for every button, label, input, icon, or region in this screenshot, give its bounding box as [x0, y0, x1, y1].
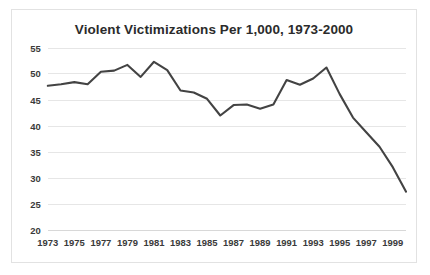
line-chart-plot: 2025303540455055 19731975197719791981198… — [12, 10, 416, 262]
x-axis-tick-label: 1973 — [37, 237, 58, 248]
x-axis-tick-label: 1995 — [329, 237, 350, 248]
gridlines — [48, 48, 406, 231]
x-axis-tick-label: 1985 — [197, 237, 218, 248]
y-axis-tick-labels: 2025303540455055 — [30, 43, 40, 237]
y-axis-tick-label: 40 — [30, 121, 40, 132]
y-axis-tick-label: 30 — [30, 173, 40, 184]
x-axis-tick-label: 1997 — [356, 237, 377, 248]
x-axis-tick-label: 1993 — [303, 237, 324, 248]
x-axis-tick-label: 1983 — [170, 237, 191, 248]
chart-container: Violent Victimizations Per 1,000, 1973-2… — [11, 9, 417, 263]
y-axis-tick-label: 55 — [30, 43, 40, 54]
x-axis-tick-label: 1975 — [64, 237, 85, 248]
y-axis-tick-label: 45 — [30, 95, 40, 106]
y-axis-tick-label: 25 — [30, 199, 40, 210]
y-axis-tick-label: 50 — [30, 68, 40, 79]
x-axis-tick-label: 1999 — [382, 237, 403, 248]
y-axis-tick-label: 20 — [30, 225, 40, 236]
x-axis-tick-label: 1991 — [276, 237, 297, 248]
x-axis-tick-label: 1981 — [143, 237, 164, 248]
x-axis-tick-label: 1989 — [250, 237, 271, 248]
x-axis-tick-label: 1979 — [117, 237, 138, 248]
y-axis-tick-label: 35 — [30, 147, 40, 158]
x-axis-tick-label: 1977 — [90, 237, 111, 248]
x-axis-tick-label: 1987 — [223, 237, 244, 248]
x-axis-tick-labels: 1973197519771979198119831985198719891991… — [37, 237, 403, 248]
